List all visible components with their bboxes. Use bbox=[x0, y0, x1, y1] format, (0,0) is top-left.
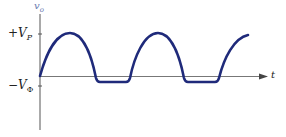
x-axis-arrow-icon bbox=[259, 74, 268, 80]
x-axis-label: t bbox=[271, 69, 275, 80]
output-waveform bbox=[40, 33, 248, 82]
vp-label: +VP bbox=[8, 26, 32, 42]
y-axis-label: vo bbox=[34, 0, 44, 14]
waveform-diagram: vo +VP −VΦ t bbox=[0, 0, 286, 137]
vphi-label: −VΦ bbox=[8, 78, 33, 94]
waveform-canvas bbox=[0, 0, 286, 137]
